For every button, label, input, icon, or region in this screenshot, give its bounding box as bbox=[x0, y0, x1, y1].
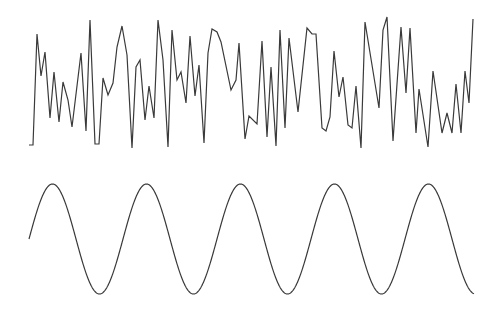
noise-signal-line bbox=[29, 17, 473, 148]
chart-canvas bbox=[0, 0, 501, 323]
sine-wave-line bbox=[29, 184, 474, 294]
